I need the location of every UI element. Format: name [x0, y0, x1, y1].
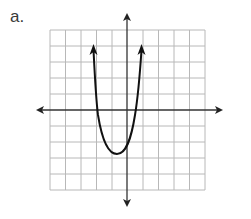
parabola-curve: [94, 50, 142, 154]
coordinate-plane: [0, 0, 251, 219]
